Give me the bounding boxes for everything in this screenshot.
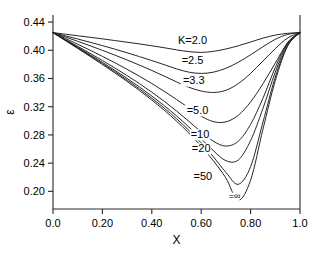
curve-label: =∞ bbox=[229, 191, 241, 201]
y-tick-label: 0.32 bbox=[24, 101, 45, 113]
chart-canvas: K=2.0=2.5=3.3=5.0=10=20=50=∞ 0.200.240.2… bbox=[0, 0, 325, 262]
x-tick-label: 0.80 bbox=[240, 217, 261, 229]
y-tick-label: 0.44 bbox=[24, 16, 45, 28]
x-tick-label: 0.40 bbox=[141, 217, 162, 229]
y-tick-label: 0.40 bbox=[24, 44, 45, 56]
curve-label: =10 bbox=[191, 128, 210, 140]
axes-group bbox=[48, 15, 300, 214]
curve-label: =20 bbox=[192, 142, 211, 154]
curve-label: =5.0 bbox=[187, 104, 209, 116]
curve-label: =3.3 bbox=[183, 74, 205, 86]
y-tick-label: 0.24 bbox=[24, 157, 45, 169]
x-tick-label: 0.60 bbox=[190, 217, 211, 229]
curve-labels-group: K=2.0=2.5=3.3=5.0=10=20=50=∞ bbox=[177, 34, 241, 202]
curve-label: =2.5 bbox=[182, 54, 204, 66]
curves-group bbox=[53, 33, 300, 201]
axis-spine-left-bottom bbox=[53, 15, 300, 209]
x-tick-label: 0.20 bbox=[92, 217, 113, 229]
y-tick-label: 0.20 bbox=[24, 185, 45, 197]
x-tick-label: 1.0 bbox=[292, 217, 307, 229]
y-axis-title: ε bbox=[3, 109, 17, 115]
curve-label: K=2.0 bbox=[178, 34, 207, 46]
y-tick-label: 0.28 bbox=[24, 129, 45, 141]
curve-label: =50 bbox=[194, 170, 213, 182]
x-axis-title: X bbox=[172, 233, 180, 247]
y-tick-label: 0.36 bbox=[24, 72, 45, 84]
chart-figure: K=2.0=2.5=3.3=5.0=10=20=50=∞ 0.200.240.2… bbox=[0, 0, 325, 262]
x-tick-label: 0.0 bbox=[45, 217, 60, 229]
